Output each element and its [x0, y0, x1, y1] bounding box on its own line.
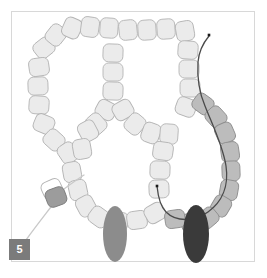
seed-bead-light — [71, 138, 92, 161]
beading-diagram-figure: 5 — [0, 0, 267, 278]
needle-tip-top — [208, 34, 211, 37]
seed-bead-light — [118, 19, 138, 41]
oval-bead-left — [103, 206, 127, 262]
seed-bead-light — [180, 79, 200, 97]
seed-bead-light — [150, 161, 171, 180]
seed-bead-light — [80, 16, 101, 38]
seed-bead-light — [137, 19, 156, 40]
seed-bead-light — [28, 77, 49, 96]
needle-tip-lower — [156, 185, 159, 188]
diagram-canvas — [0, 0, 267, 278]
seed-bead-light — [179, 60, 199, 78]
seed-bead-light — [28, 95, 49, 114]
step-number-badge: 5 — [9, 239, 30, 260]
seed-bead-light — [174, 20, 195, 43]
seed-bead-light — [28, 57, 50, 78]
seed-bead-light — [103, 44, 124, 63]
seed-bead-light — [152, 141, 174, 162]
seed-bead-light — [103, 82, 124, 101]
seed-bead-light — [103, 63, 123, 81]
oval-bead-right — [183, 205, 209, 263]
seed-bead-light — [99, 17, 118, 38]
step-number-label: 5 — [16, 244, 22, 255]
seed-bead-light — [177, 40, 198, 59]
seed-bead-medium — [222, 161, 241, 182]
seed-bead-light — [156, 18, 175, 39]
